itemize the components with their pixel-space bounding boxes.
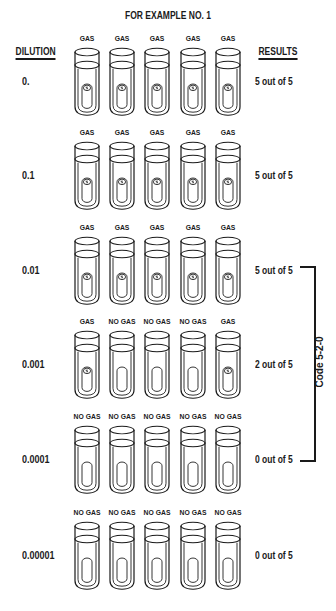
tube-label: GAS [207, 128, 250, 137]
dilution-value: 0.0001 [22, 454, 58, 465]
dilution-value: 0.01 [22, 265, 58, 276]
dilution-row: 0.00001NO GASNO GASNO GASNO GASNO GAS0 o… [0, 504, 336, 599]
result-value: 5 out of 5 [255, 265, 293, 276]
tube-label: GAS [207, 223, 250, 232]
tube-label: GAS [207, 317, 250, 326]
code-label: Code 5-2-0 [314, 336, 325, 387]
dilution-row: 0.GASGASGASGASGAS5 out of 5 [0, 30, 336, 125]
dilution-row: 0.1GASGASGASGASGAS5 out of 5 [0, 124, 336, 219]
result-value: 5 out of 5 [255, 76, 293, 87]
dilution-row: 0.001GASNO GASNO GASNO GASGAS2 out of 5 [0, 313, 336, 408]
result-value: 5 out of 5 [255, 170, 293, 181]
result-value: 0 out of 5 [255, 454, 293, 465]
tube-label: NO GAS [207, 508, 250, 517]
dilution-value: 0.00001 [22, 550, 58, 561]
dilution-value: 0. [22, 76, 58, 87]
result-value: 0 out of 5 [255, 550, 293, 561]
result-value: 2 out of 5 [255, 359, 293, 370]
tube-label: GAS [207, 34, 250, 43]
dilution-row: 0.01GASGASGASGASGAS5 out of 5 [0, 219, 336, 314]
tube-label: NO GAS [207, 412, 250, 421]
dilution-row: 0.0001NO GASNO GASNO GASNO GASNO GAS0 ou… [0, 408, 336, 503]
dilution-value: 0.001 [22, 359, 58, 370]
dilution-value: 0.1 [22, 170, 58, 181]
diagram-title: FOR EXAMPLE NO. 1 [25, 10, 311, 21]
